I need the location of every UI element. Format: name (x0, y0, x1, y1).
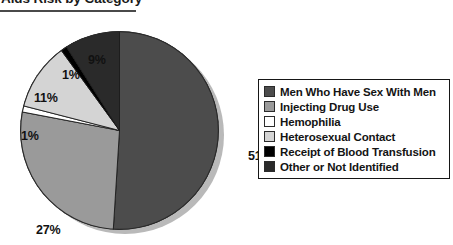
legend-swatch-icon (264, 101, 275, 112)
legend-swatch-icon (264, 116, 275, 127)
pie-label-receipt-of-blood-transfusion: 1% (62, 68, 80, 82)
legend-item-label: Other or Not Identified (280, 161, 399, 173)
pie-slices-svg (20, 31, 219, 230)
legend-item-label: Injecting Drug Use (280, 101, 379, 113)
legend-item-hemophilia: Hemophilia (264, 114, 445, 129)
legend-item-label: Hemophilia (280, 116, 340, 128)
pie-label-hemophilia: 1% (21, 129, 39, 143)
legend-swatch-icon (264, 131, 275, 142)
legend-swatch-icon (264, 161, 275, 172)
legend-item-men-who-have-sex-with-men: Men Who Have Sex With Men (264, 84, 445, 99)
legend-item-label: Receipt of Blood Transfusion (280, 146, 436, 158)
legend-swatch-icon (264, 86, 275, 97)
legend-item-injecting-drug-use: Injecting Drug Use (264, 99, 445, 114)
pie-label-other-or-not-identified: 9% (88, 53, 106, 67)
title-underline-rule (0, 10, 136, 12)
legend-item-other-or-not-identified: Other or Not Identified (264, 159, 445, 174)
page-title: Aids Risk by Category (1, 0, 142, 6)
pie-chart: 51% 27% 1% 11% 1% 9% (20, 31, 226, 235)
chart-legend: Men Who Have Sex With Men Injecting Drug… (258, 79, 450, 179)
pie-disc (20, 31, 219, 230)
pie-slice (113, 31, 219, 230)
legend-item-label: Men Who Have Sex With Men (280, 86, 436, 98)
legend-item-label: Heterosexual Contact (280, 131, 395, 143)
pie-label-heterosexual-contact: 11% (34, 91, 58, 105)
legend-item-receipt-of-blood-transfusion: Receipt of Blood Transfusion (264, 144, 445, 159)
pie-label-injecting-drug-use: 27% (36, 223, 60, 237)
title-block: Aids Risk by Category (0, 0, 180, 13)
legend-item-heterosexual-contact: Heterosexual Contact (264, 129, 445, 144)
legend-swatch-icon (264, 146, 275, 157)
